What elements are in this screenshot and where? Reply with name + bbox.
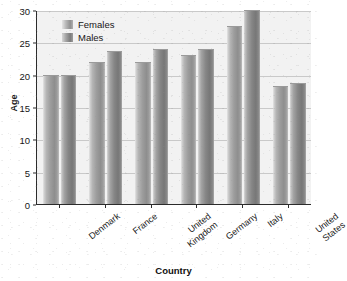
bar-united-kingdom-males [153,49,169,204]
legend-swatch-females-icon [62,20,73,29]
x-tick-mark-5 [288,205,289,208]
bar-united-states-males [290,83,306,204]
y-tick-label-25: 25 [0,38,30,49]
plot-area: Females Males [36,11,311,205]
legend-entry-males: Males [62,31,114,44]
legend-swatch-males-icon [62,33,73,42]
y-tick-label-10: 10 [0,135,30,146]
x-tick-label-denmark: Denmark [87,211,122,242]
bar-denmark-males [61,75,77,204]
bar-germany-females [181,55,197,204]
y-tick-label-15: 15 [0,103,30,114]
bar-united-kingdom-females [135,62,151,204]
x-tick-mark-4 [242,205,243,208]
bar-united-states-females [273,86,289,204]
y-tick-label-20: 20 [0,70,30,81]
y-tick-label-30: 30 [0,6,30,17]
legend-entry-females: Females [62,18,114,31]
x-tick-mark-2 [151,205,152,208]
y-tick-label-0: 0 [0,200,30,211]
legend-label-males: Males [78,32,103,43]
x-tick-label-italy: Italy [266,211,285,229]
bar-france-females [89,62,105,204]
bar-denmark-females [43,75,59,204]
legend: Females Males [59,16,118,46]
y-axis-ticks: 051015202530 [0,0,34,281]
bar-italy-males [244,10,260,204]
x-tick-mark-0 [59,205,60,208]
legend-label-females: Females [78,19,114,30]
x-axis-ticks: DenmarkFranceUnitedKingdomGermanyItalyUn… [36,206,311,260]
x-axis-title: Country [36,265,311,276]
x-tick-mark-3 [196,205,197,208]
x-tick-label-france: France [131,211,160,237]
x-tick-label-united-states: UnitedStates [314,211,347,244]
x-tick-mark-1 [105,205,106,208]
bar-germany-males [198,49,214,204]
x-tick-label-germany: Germany [224,211,260,242]
y-tick-label-5: 5 [0,167,30,178]
bar-italy-females [227,26,243,204]
bar-france-males [107,51,123,204]
x-tick-label-united-kingdom: UnitedKingdom [178,211,219,249]
